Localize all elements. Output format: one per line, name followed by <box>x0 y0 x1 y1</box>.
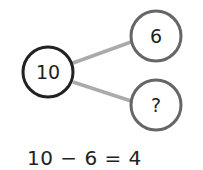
part-node-2: ? <box>131 80 181 130</box>
part-node-1: 6 <box>131 11 181 61</box>
part-node-2-label: ? <box>151 94 161 116</box>
equation-text: 10 − 6 = 4 <box>27 146 142 170</box>
connector-whole-to-part-1 <box>73 42 131 63</box>
whole-node-label: 10 <box>36 61 60 83</box>
connector-whole-to-part-2 <box>73 82 131 101</box>
number-bond-diagram: 10 6 ? <box>0 0 203 170</box>
part-node-1-label: 6 <box>150 25 162 47</box>
whole-node: 10 <box>23 47 73 97</box>
